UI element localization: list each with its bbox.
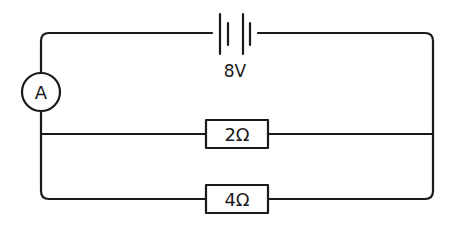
resistor-2-ohm-label: 2Ω bbox=[224, 124, 249, 145]
circuit-diagram: 8V A 2Ω 4Ω bbox=[0, 0, 452, 228]
top-wire-right bbox=[258, 33, 433, 199]
top-wire-left bbox=[41, 33, 212, 73]
ammeter-label: A bbox=[35, 82, 48, 103]
battery-voltage-label: 8V bbox=[224, 61, 247, 81]
left-wire bbox=[41, 111, 49, 199]
battery-icon bbox=[220, 14, 250, 54]
resistor-4-ohm-label: 4Ω bbox=[224, 189, 249, 210]
